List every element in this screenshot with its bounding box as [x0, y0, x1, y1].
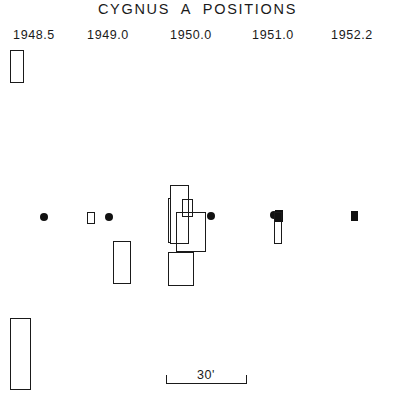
error-box-1950-0-main — [176, 212, 206, 252]
cygnus-a-positions-figure: CYGNUS A POSITIONS 1948.51949.01950.0195… — [0, 0, 395, 407]
filled-box-1952-2 — [351, 211, 358, 221]
scale-bar-line — [166, 383, 246, 384]
epoch-label: 1948.5 — [4, 28, 64, 42]
error-box-1951-0-bar — [274, 212, 282, 244]
error-box-1948-5-upper — [10, 50, 24, 83]
epoch-label: 1950.0 — [161, 28, 221, 42]
figure-title: CYGNUS A POSITIONS — [0, 1, 395, 17]
scale-bar-tick-left — [166, 375, 167, 384]
position-dot-1949-0 — [105, 213, 113, 221]
epoch-label: 1952.2 — [322, 28, 382, 42]
scale-bar-label: 30' — [166, 368, 246, 382]
error-box-1949-0-lower — [113, 241, 131, 284]
scale-bar-tick-right — [246, 375, 247, 384]
error-box-1948-5-lower — [10, 318, 31, 390]
error-box-1950-0-lower — [168, 252, 194, 286]
position-dot-1948-5 — [40, 213, 48, 221]
position-dot-1950-0 — [207, 212, 215, 220]
epoch-label: 1951.0 — [243, 28, 303, 42]
epoch-label: 1949.0 — [78, 28, 138, 42]
error-box-1949-0-small — [87, 212, 95, 224]
